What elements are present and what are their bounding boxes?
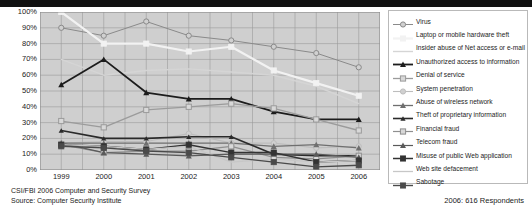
legend-item-label: Virus bbox=[416, 18, 431, 26]
x-axis-tick-label: 2002 bbox=[169, 172, 209, 181]
footer-survey-line: CSI/FBI 2006 Computer and Security Surve… bbox=[11, 186, 150, 196]
y-axis-labels: 100%90%80%70%60%50%40%30%20%10%0% bbox=[0, 12, 37, 170]
legend-item[interactable]: Virus bbox=[392, 15, 525, 28]
legend-item[interactable]: Web site defacement bbox=[392, 162, 525, 175]
y-axis-tick-label: 50% bbox=[3, 87, 37, 95]
y-axis-tick-label: 80% bbox=[3, 40, 37, 48]
line-chart-svg bbox=[40, 12, 380, 170]
legend-item-label: Theft of proprietary information bbox=[416, 111, 506, 119]
chart-legend: VirusLaptop or mobile hardware theftInsi… bbox=[388, 10, 528, 184]
legend-item-label: Laptop or mobile hardware theft bbox=[416, 31, 509, 39]
y-axis-tick-label: 0% bbox=[3, 166, 37, 174]
x-axis-tick-label: 2005 bbox=[296, 172, 336, 181]
y-axis-tick-label: 100% bbox=[3, 8, 37, 16]
legend-marker-icon bbox=[392, 150, 414, 161]
legend-item[interactable]: Insider abuse of Net access or e-mail bbox=[392, 42, 525, 55]
legend-item[interactable]: Misuse of public Web application bbox=[392, 149, 525, 162]
x-axis-tick-label: 2000 bbox=[84, 172, 124, 181]
y-axis-tick-label: 60% bbox=[3, 71, 37, 79]
legend-marker-icon bbox=[392, 123, 414, 134]
y-axis-tick-label: 30% bbox=[3, 119, 37, 127]
top-black-bar bbox=[0, 0, 532, 7]
legend-item-label: Telecom fraud bbox=[416, 138, 457, 146]
legend-item[interactable]: System penetration bbox=[392, 82, 525, 95]
footer-source: CSI/FBI 2006 Computer and Security Surve… bbox=[11, 186, 150, 205]
legend-item[interactable]: Denial of service bbox=[392, 69, 525, 82]
y-axis-tick-label: 40% bbox=[3, 103, 37, 111]
y-axis-tick-label: 70% bbox=[3, 55, 37, 63]
legend-item-label: Denial of service bbox=[416, 71, 465, 79]
footer-respondents: 2006: 616 Respondents bbox=[444, 196, 524, 205]
plot-area bbox=[40, 12, 380, 170]
legend-marker-icon bbox=[392, 43, 414, 54]
legend-marker-icon bbox=[392, 177, 414, 188]
legend-marker-icon bbox=[392, 83, 414, 94]
legend-marker-icon bbox=[392, 56, 414, 67]
legend-item[interactable]: Laptop or mobile hardware theft bbox=[392, 28, 525, 41]
x-axis-labels: 19992000200120022003200420052006 bbox=[40, 172, 380, 184]
legend-item-label: Financial fraud bbox=[416, 125, 459, 133]
legend-item-label: Misuse of public Web application bbox=[416, 152, 512, 160]
legend-marker-icon bbox=[392, 137, 414, 148]
legend-marker-icon bbox=[392, 30, 414, 41]
legend-item[interactable]: Unauthorized access to information bbox=[392, 55, 525, 68]
legend-item-label: Web site defacement bbox=[416, 165, 478, 173]
legend-marker-icon bbox=[392, 163, 414, 174]
legend-marker-icon bbox=[392, 70, 414, 81]
legend-item-label: Unauthorized access to information bbox=[416, 58, 519, 66]
chart-screenshot: 100%90%80%70%60%50%40%30%20%10%0% 199920… bbox=[0, 0, 532, 211]
legend-item[interactable]: Theft of proprietary information bbox=[392, 109, 525, 122]
legend-item-label: System penetration bbox=[416, 85, 473, 93]
x-axis-tick-label: 2003 bbox=[211, 172, 251, 181]
legend-marker-icon bbox=[392, 16, 414, 27]
x-axis-tick-label: 2006 bbox=[339, 172, 379, 181]
y-axis-tick-label: 10% bbox=[3, 150, 37, 158]
legend-marker-icon bbox=[392, 110, 414, 121]
legend-item-label: Insider abuse of Net access or e-mail bbox=[416, 44, 525, 52]
legend-item-label: Sabotage bbox=[416, 178, 444, 186]
x-axis-tick-label: 2001 bbox=[126, 172, 166, 181]
x-axis-tick-label: 2004 bbox=[254, 172, 294, 181]
y-axis-tick-label: 90% bbox=[3, 24, 37, 32]
legend-item[interactable]: Telecom fraud bbox=[392, 136, 525, 149]
legend-item[interactable]: Sabotage bbox=[392, 176, 525, 189]
legend-marker-icon bbox=[392, 97, 414, 108]
footer-source-line: Source: Computer Security Institute bbox=[11, 196, 150, 206]
legend-item[interactable]: Abuse of wireless network bbox=[392, 95, 525, 108]
legend-item[interactable]: Financial fraud bbox=[392, 122, 525, 135]
x-axis-tick-label: 1999 bbox=[41, 172, 81, 181]
legend-item-label: Abuse of wireless network bbox=[416, 98, 493, 106]
y-axis-tick-label: 20% bbox=[3, 134, 37, 142]
